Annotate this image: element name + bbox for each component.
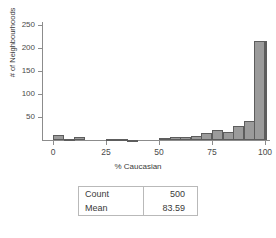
y-tick-label: 200 bbox=[9, 44, 35, 52]
x-tick-label: 75 bbox=[200, 147, 224, 157]
histogram-bar-tallest bbox=[254, 41, 265, 140]
histogram-bar bbox=[265, 41, 267, 140]
histogram-bar bbox=[233, 126, 244, 140]
histogram-bar bbox=[106, 139, 117, 141]
y-tick-label: 250 bbox=[9, 21, 35, 29]
stats-table-container: Count500Mean83.59 bbox=[0, 178, 276, 238]
x-tick-label: 50 bbox=[147, 147, 171, 157]
y-tick-mark bbox=[38, 48, 42, 49]
histogram-bar bbox=[159, 138, 170, 140]
stat-label: Mean bbox=[79, 201, 144, 216]
y-tick-label: 100 bbox=[9, 90, 35, 98]
histogram-chart: # of Neighbourhoods % Caucasian 50100150… bbox=[0, 0, 276, 178]
y-tick-mark bbox=[38, 25, 42, 26]
y-tick-mark bbox=[38, 117, 42, 118]
y-tick-label: 50 bbox=[9, 113, 35, 121]
x-tick-mark bbox=[159, 141, 160, 145]
histogram-bar bbox=[180, 137, 191, 140]
x-axis-line bbox=[42, 140, 270, 141]
x-tick-mark bbox=[212, 141, 213, 145]
y-tick-mark bbox=[38, 71, 42, 72]
histogram-bar bbox=[201, 133, 212, 140]
histogram-bar bbox=[212, 130, 223, 140]
histogram-bar bbox=[53, 135, 64, 140]
stats-table: Count500Mean83.59 bbox=[78, 186, 198, 216]
y-tick-label: 150 bbox=[9, 67, 35, 75]
histogram-bar bbox=[74, 137, 85, 140]
table-row: Count500 bbox=[79, 187, 198, 202]
x-tick-label: 0 bbox=[41, 147, 65, 157]
x-tick-mark bbox=[106, 141, 107, 145]
x-tick-mark bbox=[265, 141, 266, 145]
y-axis-line bbox=[42, 22, 43, 141]
stat-value: 83.59 bbox=[144, 201, 198, 216]
stat-label: Count bbox=[79, 187, 144, 202]
y-tick-mark bbox=[38, 94, 42, 95]
table-row: Mean83.59 bbox=[79, 201, 198, 216]
plot-area: 501001502002500255075100 bbox=[0, 0, 276, 178]
stat-value: 500 bbox=[144, 187, 198, 202]
histogram-bar bbox=[127, 140, 138, 142]
x-tick-mark bbox=[53, 141, 54, 145]
x-tick-label: 100 bbox=[253, 147, 276, 157]
x-tick-label: 25 bbox=[94, 147, 118, 157]
